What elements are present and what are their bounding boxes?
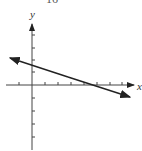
- data-line: [10, 58, 68, 77]
- data-line: [68, 77, 130, 97]
- graph: y x: [0, 0, 142, 151]
- y-axis-label: y: [29, 8, 35, 20]
- x-axis-label: x: [136, 80, 142, 92]
